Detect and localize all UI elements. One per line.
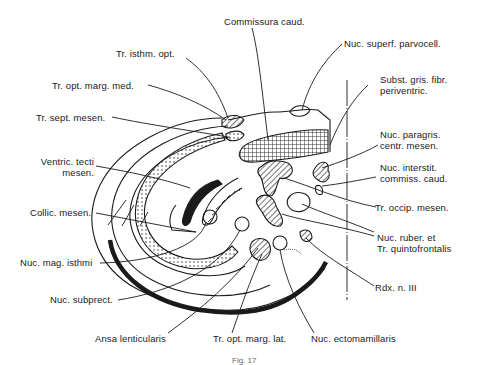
- label-subst-gris-fibr: Subst. gris. fibr. periventric.: [380, 74, 447, 96]
- label-tr-sept-mesen: Tr. sept. mesen.: [36, 112, 105, 123]
- label-nuc-mag-isthmi: Nuc. mag. isthmi: [20, 257, 92, 268]
- ventral-band: [110, 240, 326, 312]
- label-collic-mesen: Collic. mesen.: [30, 207, 91, 218]
- label-nuc-superf-parvocell: Nuc. superf. parvocell.: [344, 38, 441, 49]
- label-tr-isthm-opt: Tr. isthm. opt.: [116, 48, 175, 59]
- figure-caption: Fig. 17: [232, 356, 256, 365]
- label-rdx-n-iii: Rdx. n. III: [375, 282, 417, 293]
- label-nuc-paragris: Nuc. paragris. centr. mesen.: [380, 129, 441, 151]
- label-nuc-interstit: Nuc. interstit. commiss. caud.: [380, 162, 447, 184]
- label-tr-opt-marg-lat: Tr. opt. marg. lat.: [213, 333, 286, 344]
- nuc-mag-isthmi: [203, 210, 217, 224]
- stratum-dotted: [136, 133, 238, 269]
- label-tr-opt-marg-med: Tr. opt. marg. med.: [52, 80, 134, 91]
- commissura-caud: [239, 130, 328, 162]
- label-ansa-lenticularis: Ansa lenticularis: [95, 333, 166, 344]
- label-tr-occip-mesen: Tr. occip. mesen.: [375, 202, 449, 213]
- nuc-ruber: [256, 195, 282, 226]
- label-nuc-subprect: Nuc. subprect.: [50, 294, 113, 305]
- label-nuc-ruber: Nuc. ruber. et Tr. quintofrontalis: [377, 232, 451, 254]
- label-nuc-ectomamillaris: Nuc. ectomamillaris: [311, 333, 396, 344]
- nuc-ectomamillaris: [273, 236, 287, 250]
- tr-occip-mesen: [258, 161, 292, 196]
- label-commissura-caud: Commissura caud.: [224, 16, 305, 27]
- label-ventric-tecti-mesen: Ventric. tecti mesen.: [30, 156, 94, 178]
